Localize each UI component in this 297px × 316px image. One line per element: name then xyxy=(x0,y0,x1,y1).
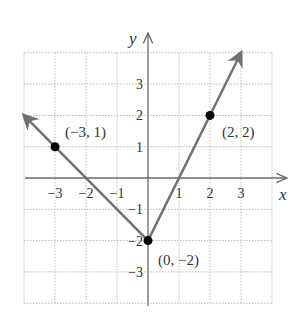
x-tick-label: −2 xyxy=(79,186,94,201)
x-tick-label: −3 xyxy=(48,186,63,201)
x-tick-label: 2 xyxy=(207,186,214,201)
point-label: (−3, 1) xyxy=(65,124,106,141)
y-tick-label: −3 xyxy=(128,265,143,280)
x-tick-label: −1 xyxy=(110,186,125,201)
data-point-marker xyxy=(144,236,153,245)
data-point-marker xyxy=(206,111,215,120)
y-axis-label: y xyxy=(127,29,137,48)
y-tick-label: 3 xyxy=(136,77,143,92)
y-tick-label: −1 xyxy=(128,202,143,217)
coordinate-plane: x y −3−2−1123321−1−2−3 (−3, 1)(2, 2)(0, … xyxy=(0,0,297,316)
point-label: (0, −2) xyxy=(158,252,199,269)
y-tick-label: 2 xyxy=(136,108,143,123)
y-tick-label: 1 xyxy=(136,140,143,155)
data-point-marker xyxy=(51,142,60,151)
point-label: (2, 2) xyxy=(222,124,255,141)
x-tick-label: 1 xyxy=(176,186,183,201)
y-tick-label: −2 xyxy=(128,234,143,249)
axes: x y xyxy=(25,29,287,306)
x-tick-label: 3 xyxy=(238,186,245,201)
x-axis-label: x xyxy=(278,185,287,204)
